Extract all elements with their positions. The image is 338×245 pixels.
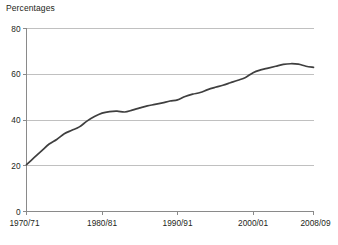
x-tick-labels: 1970/711980/811990/912000/012008/09 bbox=[10, 218, 331, 228]
y-tick-label: 20 bbox=[11, 161, 21, 171]
x-tick-label: 2000/01 bbox=[238, 218, 268, 228]
y-tick-marks bbox=[23, 29, 27, 212]
y-tick-labels: 020406080 bbox=[11, 24, 21, 217]
chart-container: Percentages 020406080 1970/711980/811990… bbox=[0, 0, 338, 245]
gridlines bbox=[27, 29, 314, 212]
x-tick-label: 1990/91 bbox=[163, 218, 193, 228]
y-tick-label: 80 bbox=[11, 24, 21, 34]
x-tick-label: 2008/09 bbox=[301, 218, 331, 228]
y-tick-label: 60 bbox=[11, 69, 21, 79]
x-tick-label: 1980/81 bbox=[87, 218, 117, 228]
x-tick-marks bbox=[27, 212, 314, 216]
x-tick-label: 1970/71 bbox=[10, 218, 40, 228]
line-chart-plot: 020406080 1970/711980/811990/912000/0120… bbox=[0, 0, 338, 245]
y-tick-label: 40 bbox=[11, 115, 21, 125]
y-tick-label: 0 bbox=[16, 207, 21, 217]
data-series-line bbox=[27, 64, 314, 165]
